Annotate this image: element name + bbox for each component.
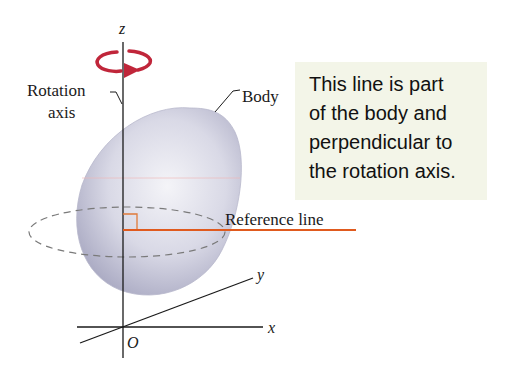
rotation-arrow-icon — [97, 51, 150, 78]
y-axis-label: y — [255, 266, 265, 284]
body-leader — [215, 90, 240, 112]
callout-line: perpendicular to — [309, 128, 487, 157]
rotation-axis-label-line1: Rotation — [27, 81, 86, 100]
body-label: Body — [242, 87, 279, 106]
callout-box: This line is part of the body and perpen… — [295, 62, 487, 200]
x-axis-label: x — [267, 319, 275, 336]
origin-label: O — [127, 334, 139, 351]
callout-line: the rotation axis. — [309, 157, 487, 186]
rigid-body-shape — [77, 108, 242, 295]
reference-line-label: Reference line — [225, 210, 324, 229]
callout-line: of the body and — [309, 99, 487, 128]
rigid-body-rotation-diagram: z Rotation axis Body Reference line y x … — [0, 0, 506, 376]
rotation-axis-label-line2: axis — [48, 103, 75, 122]
z-axis-label: z — [118, 20, 126, 37]
callout-line: This line is part — [309, 70, 487, 99]
rotation-axis-leader — [110, 92, 122, 104]
